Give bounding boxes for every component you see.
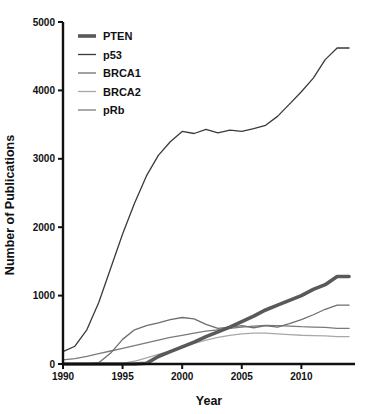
series-line-prb (63, 325, 349, 360)
series-line-brca1 (63, 305, 349, 364)
y-tick-label: 4000 (33, 85, 56, 96)
y-axis-title: Number of Publications (3, 135, 17, 275)
x-axis-title: Year (196, 394, 223, 408)
x-tick-label-group: 19901995200020052010 (52, 371, 313, 382)
x-tick-label: 2000 (171, 371, 194, 382)
y-tick-label: 0 (49, 359, 55, 370)
publications-line-chart: 19901995200020052010 0100020003000400050… (0, 0, 368, 414)
legend-label-p53: p53 (103, 49, 122, 61)
y-tick-label-group: 010002000300040005000 (33, 17, 56, 370)
y-tick-label: 1000 (33, 290, 56, 301)
x-tick-label: 1990 (52, 371, 75, 382)
legend-label-brca2: BRCA2 (103, 86, 141, 98)
chart-legend: PTENp53BRCA1BRCA2pRb (78, 30, 141, 116)
x-tick-label: 1995 (111, 371, 134, 382)
chart-canvas: 19901995200020052010 0100020003000400050… (0, 0, 368, 414)
x-tick-label: 2005 (231, 371, 254, 382)
legend-label-prb: pRb (103, 104, 125, 116)
legend-label-pten: PTEN (103, 30, 132, 42)
y-tick-label: 5000 (33, 17, 56, 28)
y-tick-label: 3000 (33, 153, 56, 164)
y-tick-label: 2000 (33, 222, 56, 233)
legend-label-brca1: BRCA1 (103, 67, 141, 79)
series-line-pten (63, 276, 349, 364)
x-tick-label: 2010 (290, 371, 313, 382)
